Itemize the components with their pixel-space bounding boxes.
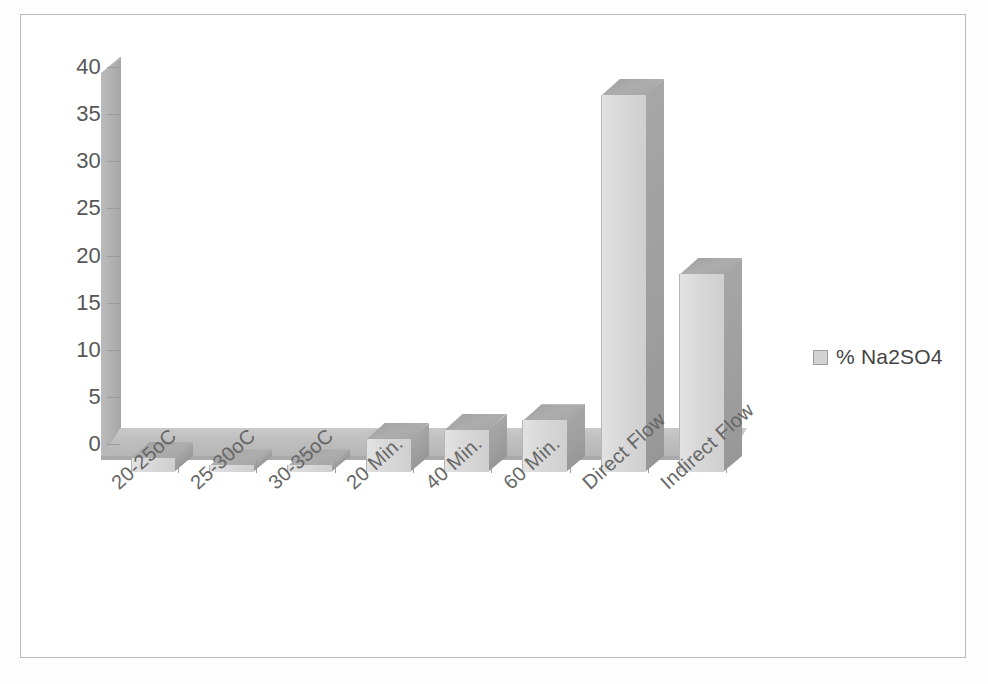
x-axis-tick-mark [413, 460, 414, 473]
x-axis-tick-mark [335, 460, 336, 473]
x-axis-tick-mark [256, 460, 257, 473]
plot-area: 0510152025303540 20-25oC25-30oC30-35oC20… [21, 15, 967, 659]
x-axis-tick-mark [491, 460, 492, 473]
x-axis-tick-mark [178, 460, 179, 473]
x-axis-tick-label: Direct Flow [578, 408, 670, 494]
x-axis-tick-mark [648, 460, 649, 473]
x-axis-tick-label: 25-30oC [186, 424, 260, 494]
x-axis-tick-label: 30-35oC [264, 424, 338, 494]
chart-legend: % Na2SO4 [813, 345, 943, 369]
x-axis-labels: 20-25oC25-30oC30-35oC20 Min.40 Min.60 Mi… [21, 15, 967, 659]
x-axis-tick-label: 20 Min. [342, 432, 408, 494]
legend-entry-label: % Na2SO4 [836, 345, 943, 369]
x-axis-tick-mark [726, 460, 727, 473]
x-axis-tick-mark [570, 460, 571, 473]
x-axis-tick-label: Indirect Flow [656, 399, 759, 495]
x-axis-tick-label: 40 Min. [421, 432, 487, 494]
x-axis-tick-label: 20-25oC [107, 424, 181, 494]
x-axis-tick-label: 60 Min. [499, 432, 565, 494]
legend-swatch-icon [813, 350, 828, 365]
chart-frame: 0510152025303540 20-25oC25-30oC30-35oC20… [20, 14, 966, 658]
